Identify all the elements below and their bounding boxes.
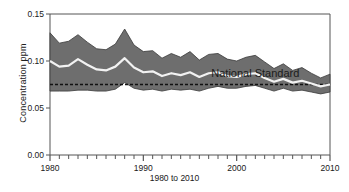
y-tick-label: 0.10 xyxy=(27,56,44,66)
air-quality-trend-chart: Concentration ppm 1980 to 2010 0.000.050… xyxy=(0,0,349,192)
y-tick-label: 0.05 xyxy=(27,103,44,113)
y-tick-label: 0.00 xyxy=(27,150,44,160)
x-tick-label: 2000 xyxy=(227,163,246,173)
x-tick-label: 1980 xyxy=(41,163,60,173)
x-tick-label: 2010 xyxy=(321,163,340,173)
y-tick-label: 0.15 xyxy=(27,9,44,19)
national-standard-annotation: National Standard xyxy=(211,67,299,79)
x-tick-label: 1990 xyxy=(134,163,153,173)
plot-area: 0.000.050.100.151980199020002010National… xyxy=(0,0,349,192)
